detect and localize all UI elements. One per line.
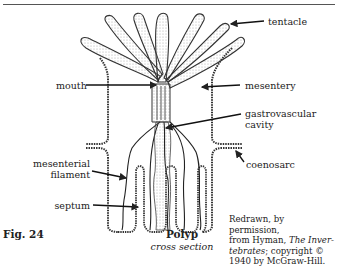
label-mouth: mouth — [56, 80, 87, 91]
label-gastrovascular: gastrovascular — [245, 108, 316, 119]
figure-number: Fig. 24 — [3, 228, 44, 240]
figure-subtitle: cross section — [126, 241, 238, 252]
gastrovascular-core — [154, 122, 171, 230]
label-coenosarc: coenosarc — [246, 159, 295, 170]
label-tentacle: tentacle — [268, 16, 307, 27]
figure-title: Polyp — [141, 228, 223, 240]
credit-line-3-text: ; copyright © — [265, 246, 324, 256]
label-mesentery: mesentery — [245, 80, 296, 91]
label-mesenterial: mesenterial — [20, 158, 90, 169]
credit-line-3: tebrates; copyright © — [229, 246, 337, 257]
credit-line-2: from Hyman, The Inver- — [229, 235, 337, 246]
credit-note: Redrawn, by permission, from Hyman, The … — [229, 214, 337, 267]
credit-book-title-part1: The Inver- — [289, 235, 334, 245]
label-cavity: cavity — [245, 119, 274, 130]
credit-line-4: 1940 by McGraw-Hill. — [229, 256, 337, 267]
credit-book-title-part2: tebrates — [229, 246, 265, 256]
credit-line-2-text: from Hyman, — [229, 235, 289, 245]
credit-line-1: Redrawn, by permission, — [229, 214, 337, 235]
label-filament: filament — [20, 169, 90, 180]
label-septum: septum — [20, 200, 90, 211]
pharynx — [152, 84, 170, 122]
tentacles — [81, 13, 245, 88]
